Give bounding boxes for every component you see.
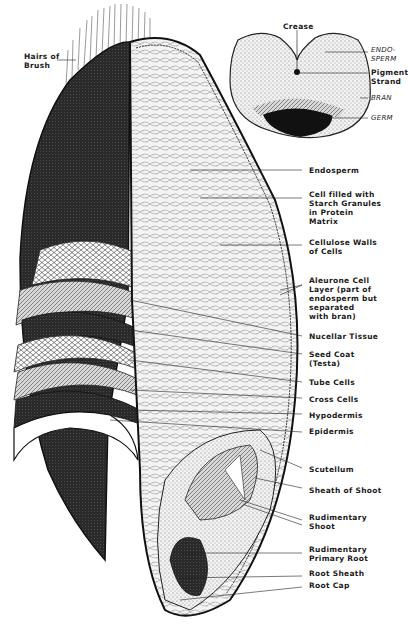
cross-section-diagram — [230, 33, 370, 137]
label-scutellum: Scutellum — [309, 465, 354, 474]
label-cellulose-walls: Cellulose Walls of Cells — [309, 238, 377, 256]
label-bran: BRAN — [371, 94, 392, 103]
label-crease: Crease — [283, 22, 314, 31]
label-endosperm-cross: ENDO- SPERM — [371, 46, 397, 64]
label-root-cap: Root Cap — [309, 581, 350, 590]
label-rudimentary-shoot: Rudimentary Shoot — [309, 513, 367, 531]
label-aleurone: Aleurone Cell Layer (part of endosperm b… — [309, 276, 377, 321]
label-tube-cells: Tube Cells — [309, 378, 355, 387]
label-pigment-strand: Pigment Strand — [371, 68, 408, 86]
label-endosperm: Endosperm — [309, 166, 359, 175]
label-hypodermis: Hypodermis — [309, 411, 363, 420]
label-seed-coat: Seed Coat (Testa) — [309, 350, 355, 368]
label-root-sheath: Root Sheath — [309, 569, 364, 578]
label-epidermis: Epidermis — [309, 427, 354, 436]
label-rudimentary-root: Rudimentary Primary Root — [309, 545, 368, 563]
label-nucellar: Nucellar Tissue — [309, 332, 378, 341]
label-germ: GERM — [371, 114, 393, 123]
label-cross-cells: Cross Cells — [309, 395, 358, 404]
label-hairs-of-brush: Hairs of Brush — [24, 52, 60, 70]
label-sheath-of-shoot: Sheath of Shoot — [309, 486, 382, 495]
label-starch-cell: Cell filled with Starch Granules in Prot… — [309, 190, 381, 226]
